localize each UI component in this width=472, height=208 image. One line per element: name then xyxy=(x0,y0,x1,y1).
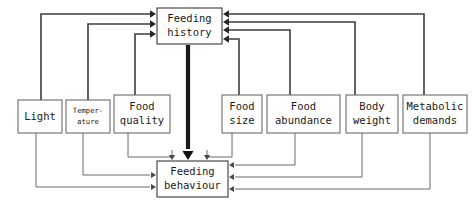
node-food-abundance[interactable]: Foodabundance xyxy=(267,95,340,133)
node-label-line: demands xyxy=(413,114,457,126)
arrowhead-icon xyxy=(229,162,234,168)
node-label-line: Feeding xyxy=(170,165,214,177)
diagram-canvas: FeedinghistoryLightTemper-atureFoodquali… xyxy=(0,0,472,208)
node-label-line: behaviour xyxy=(164,179,221,191)
edge-metabolic-to-behaviour xyxy=(229,133,430,192)
node-label-line: Light xyxy=(24,110,56,122)
arrowhead-icon xyxy=(229,186,234,192)
node-light[interactable]: Light xyxy=(18,100,62,133)
node-label-line: history xyxy=(167,26,211,38)
node-label-line: abundance xyxy=(275,114,332,126)
edge-food-abundance-to-history xyxy=(223,26,290,95)
nodes-layer: FeedinghistoryLightTemper-atureFoodquali… xyxy=(18,8,467,197)
node-label-line: Metabolic xyxy=(407,100,464,112)
arrowhead-icon xyxy=(151,184,156,190)
node-temperature[interactable]: Temper-ature xyxy=(66,100,110,133)
arrowhead-icon xyxy=(182,151,193,160)
edge-food-quality-to-history xyxy=(135,30,156,95)
node-food-size[interactable]: Foodsize xyxy=(222,95,262,133)
edge-history-to-behaviour xyxy=(182,45,193,160)
node-label-line: Temper- xyxy=(73,106,103,115)
node-label-line: Food xyxy=(129,100,154,112)
edge-food-size-to-history xyxy=(223,35,239,95)
edge-temperature-to-behaviour xyxy=(83,133,156,178)
node-label-line: Food xyxy=(229,100,254,112)
node-label-line: quality xyxy=(120,114,164,126)
arrowhead-icon xyxy=(229,174,234,180)
arrowhead-icon xyxy=(151,172,156,178)
node-feeding-behaviour[interactable]: Feedingbehaviour xyxy=(157,161,228,197)
arrowhead-icon xyxy=(223,26,229,33)
node-label-line: Body xyxy=(359,100,384,112)
arrowhead-icon xyxy=(223,18,229,25)
edge-food-quality-to-behaviour xyxy=(128,133,175,160)
arrowhead-icon xyxy=(150,10,156,17)
edge-light-to-behaviour xyxy=(36,133,156,190)
node-label-line: Feeding xyxy=(167,12,211,24)
edge-food-size-to-behaviour xyxy=(204,133,232,160)
node-label-line: ature xyxy=(77,117,99,126)
diagram-root: FeedinghistoryLightTemper-atureFoodquali… xyxy=(0,0,472,208)
node-metabolic-demands[interactable]: Metabolicdemands xyxy=(403,95,467,133)
arrowhead-icon xyxy=(223,10,229,17)
node-label-line: Food xyxy=(291,100,316,112)
edge-food-abundance-to-behaviour xyxy=(229,133,295,168)
node-body-weight[interactable]: Bodyweight xyxy=(346,95,398,133)
node-label-line: weight xyxy=(353,114,391,126)
node-food-quality[interactable]: Foodquality xyxy=(114,95,170,133)
node-label-line: size xyxy=(229,114,254,126)
edge-metabolic-demands-to-history xyxy=(223,10,424,95)
arrowhead-icon xyxy=(150,20,156,27)
arrowhead-icon xyxy=(150,30,156,37)
node-feeding-history[interactable]: Feedinghistory xyxy=(157,8,222,44)
edge-temperature-to-history xyxy=(88,20,156,100)
arrowhead-icon xyxy=(223,35,229,42)
